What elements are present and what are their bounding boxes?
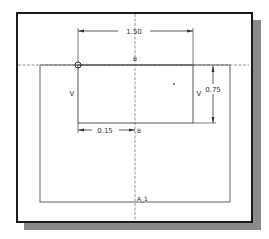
slot-rectangle[interactable]: [78, 65, 193, 123]
midpoint-constraint-top: B: [133, 55, 137, 62]
vertical-constraint-right: V: [197, 90, 202, 98]
dimension-top-width-value: 1.50: [126, 28, 142, 36]
dimension-bottom-offset-value: 0.15: [97, 127, 113, 135]
sketch-canvas: 1.50 0.75 0.15 V V B B A_1: [0, 0, 269, 239]
stray-mark: [173, 83, 175, 85]
dimension-right-height-value: 0.75: [205, 86, 221, 94]
midpoint-constraint-bottom: B: [137, 127, 141, 134]
dimension-bottom-offset[interactable]: 0.15: [78, 123, 135, 135]
base-label: A_1: [137, 195, 148, 203]
vertical-constraint-left: V: [70, 90, 75, 98]
